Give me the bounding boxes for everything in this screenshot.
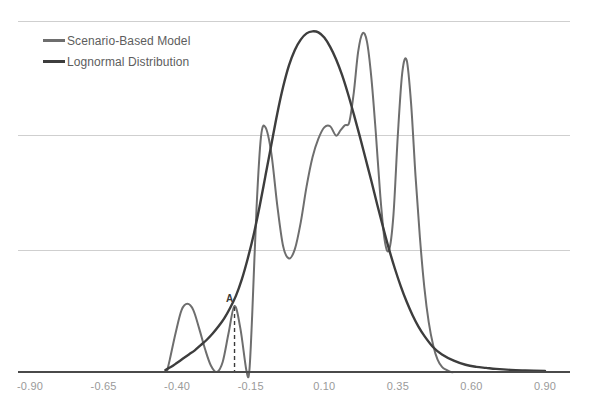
chart-container: Scenario-Based Model Lognormal Distribut… [0, 0, 591, 407]
series-line-scenario-based-model [167, 33, 472, 377]
x-tick-label: -0.40 [164, 380, 190, 392]
x-tick-label: 0.10 [313, 380, 335, 392]
x-tick-label: -0.65 [91, 380, 117, 392]
x-tick-label: -0.15 [238, 380, 264, 392]
series-group [165, 31, 545, 377]
legend-label-lognormal-distribution: Lognormal Distribution [67, 55, 189, 69]
annotation-label-a: A [226, 293, 233, 304]
x-tick-label: -0.90 [17, 380, 43, 392]
legend-entry-lognormal-distribution: Lognormal Distribution [43, 51, 190, 72]
chart-legend: Scenario-Based Model Lognormal Distribut… [43, 30, 190, 72]
x-tick-label: 0.60 [460, 380, 482, 392]
x-tick-label: 0.90 [534, 380, 556, 392]
legend-label-scenario-based-model: Scenario-Based Model [67, 34, 190, 48]
legend-swatch-lognormal-distribution [43, 60, 65, 63]
x-tick-label: 0.35 [387, 380, 409, 392]
legend-entry-scenario-based-model: Scenario-Based Model [43, 30, 190, 51]
legend-swatch-scenario-based-model [43, 39, 65, 42]
